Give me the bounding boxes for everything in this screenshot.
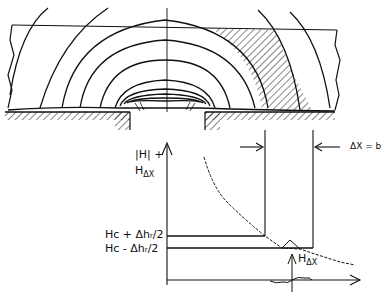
- hc-plus-label: Hᴄ + Δhᵣ/2: [105, 229, 164, 240]
- field-axis-label-line1: |H| +: [135, 149, 163, 160]
- field-axis-label-line2: HΔX: [135, 165, 163, 179]
- h-delta-x-sub: ΔX: [306, 258, 317, 267]
- h-delta-x-label: HΔX: [298, 253, 317, 267]
- field-magnitude-axis: [162, 143, 360, 285]
- delta-x-equals-b-label: ΔX = b: [350, 142, 381, 151]
- diagram-svg: [0, 0, 387, 292]
- transition-width-markers: [240, 130, 340, 248]
- coercivity-band-lines: [167, 236, 313, 248]
- field-axis-label: |H| + HΔX: [135, 149, 163, 179]
- field-axis-delta-x: ΔX: [143, 170, 154, 179]
- diagram-canvas: |H| + HΔX Hᴄ + Δhᵣ/2 Hᴄ - Δhᵣ/2 ΔX = b H…: [0, 0, 387, 292]
- hc-minus-label: Hᴄ - Δhᵣ/2: [105, 243, 158, 254]
- field-decay-curve: [204, 157, 355, 265]
